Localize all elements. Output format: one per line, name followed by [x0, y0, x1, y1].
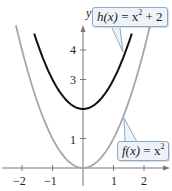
x-tick-label-1: 1: [111, 174, 117, 189]
x-tick-label-neg1: −1: [44, 174, 57, 189]
f-function-callout: f(x) = x2: [117, 141, 169, 161]
y-tick-label-4: 4: [70, 43, 76, 58]
f-label-rest: = x: [140, 143, 160, 158]
x-tick-label-2: 2: [141, 174, 147, 189]
x-tick-label-neg2: −2: [13, 174, 26, 189]
h-label-tail: + 2: [142, 9, 162, 24]
y-tick-label-3: 3: [70, 73, 76, 88]
h-function-callout: h(x) = x2 + 2: [92, 7, 168, 27]
y-axis-arrow-icon: [81, 25, 86, 32]
f-label-fn: f(x): [122, 143, 140, 158]
f-callout-pointer: [124, 118, 137, 142]
h-label-rest: = x: [118, 9, 138, 24]
h-callout-pointer: [112, 28, 123, 52]
y-axis-label: y: [86, 6, 91, 21]
chart-canvas: [0, 0, 172, 191]
f-label-exp: 2: [160, 142, 164, 151]
x-axis-arrow-icon: [163, 166, 170, 171]
y-tick-label-1: 1: [70, 133, 76, 148]
h-label-fn: h(x): [97, 9, 118, 24]
